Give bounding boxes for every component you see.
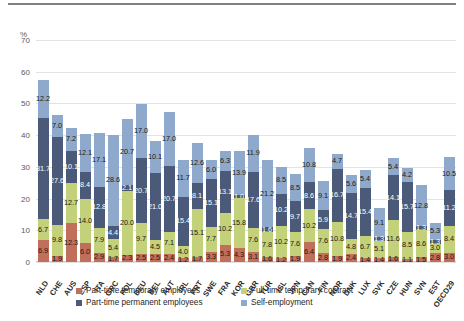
stacked-bar[interactable]: 11.917.67.63.1 <box>248 135 259 262</box>
stacked-bar[interactable]: 8.59.77.61.9 <box>290 174 301 262</box>
stacked-bar[interactable]: 9.15.97.62.8 <box>318 181 329 262</box>
bar-segment: 2.3 <box>122 255 133 262</box>
stacked-bar[interactable]: 12.18.414.06.0 <box>80 134 91 262</box>
bar-segment-value: 11.2 <box>442 204 456 211</box>
bar-segment: 3.1 <box>248 252 259 262</box>
bar-group[interactable]: 12.81.38.61.5 <box>414 40 428 262</box>
bar-group[interactable]: 9.11.35.11.4 <box>372 40 386 262</box>
bar-segment-value: 6.3 <box>220 158 230 165</box>
bar-segment: 15.4 <box>360 188 371 237</box>
stacked-bar[interactable]: 17.020.79.72.5 <box>136 104 147 262</box>
bar-group[interactable]: 12.68.115.11.7 <box>190 40 204 262</box>
bar-segment: 9.7 <box>136 223 147 254</box>
bar-group[interactable]: 5.31.33.02.8 <box>428 40 442 262</box>
bar-group[interactable]: 6.015.17.73.3 <box>204 40 218 262</box>
stacked-bar[interactable]: 5.31.33.02.8 <box>430 223 441 262</box>
stacked-bar[interactable]: 5.614.74.82.4 <box>346 175 357 262</box>
bar-segment-value: 5.6 <box>346 180 356 187</box>
bar-group[interactable]: 9.15.97.62.8 <box>316 40 330 262</box>
bar-segment: 9.1 <box>318 181 329 210</box>
bar-segment-value: 11.7 <box>176 175 190 182</box>
bar-segment-value: 12.2 <box>36 95 50 102</box>
bar-segment-value: 3.1 <box>248 253 258 260</box>
stacked-bar[interactable]: 12.231.76.76.9 <box>38 80 49 262</box>
bar-segment: 3.0 <box>444 253 455 263</box>
bar-segment-value: 17.0 <box>134 127 148 134</box>
stacked-bar[interactable]: 9.11.35.11.4 <box>374 208 385 262</box>
bar-segment: 1.7 <box>192 257 203 262</box>
bar-group[interactable]: 17.020.77.12.4 <box>162 40 176 262</box>
bar-segment: 20.7 <box>136 158 147 224</box>
stacked-bar[interactable]: 21.21.67.81.6 <box>262 160 273 262</box>
bar-group[interactable]: 4.716.710.81.9 <box>330 40 344 262</box>
stacked-bar[interactable]: 10.511.28.43.0 <box>444 157 455 262</box>
bar-group[interactable]: 12.231.76.76.9 <box>36 40 50 262</box>
bar-group[interactable]: 10.121.04.52.5 <box>148 40 162 262</box>
bar-group[interactable]: 21.21.67.81.6 <box>260 40 274 262</box>
bar-segment: 16.7 <box>332 169 343 222</box>
stacked-bar[interactable]: 13.91.015.84.3 <box>234 151 245 262</box>
legend-item[interactable]: Full-time temporary contract <box>241 286 406 295</box>
bar-group[interactable]: 7.027.69.81.9 <box>50 40 64 262</box>
legend-item[interactable]: Part-time permanent employees <box>76 298 241 307</box>
stacked-bar[interactable]: 11.715.44.01.2 <box>178 160 189 262</box>
bar-segment: 5.9 <box>318 210 329 229</box>
bar-group[interactable]: 5.414.111.61.6 <box>386 40 400 262</box>
bar-segment-value: 8.6 <box>304 192 314 199</box>
bar-group[interactable]: 13.91.015.84.3 <box>232 40 246 262</box>
stacked-bar[interactable]: 6.313.110.25.3 <box>220 151 231 262</box>
bar-group[interactable]: 7.210.112.712.3 <box>64 40 78 262</box>
stacked-bar[interactable]: 5.415.46.71.4 <box>360 170 371 262</box>
bar-group[interactable]: 28.64.45.41.7 <box>106 40 120 262</box>
bar-segment-value: 1.6 <box>388 256 398 263</box>
x-axis-label-slot: NLD <box>36 278 50 321</box>
bar-group[interactable]: 6.313.110.25.3 <box>218 40 232 262</box>
stacked-bar[interactable]: 6.015.17.73.3 <box>206 160 217 262</box>
bar-group[interactable]: 10.88.610.26.4 <box>302 40 316 262</box>
bar-group[interactable]: 11.917.67.63.1 <box>246 40 260 262</box>
bar-segment: 7.7 <box>206 227 217 251</box>
bar-segment-value: 11.6 <box>386 235 400 242</box>
stacked-bar[interactable]: 17.020.77.12.4 <box>164 112 175 262</box>
bar-group[interactable]: 17.020.79.72.5 <box>134 40 148 262</box>
stacked-bar[interactable]: 4.716.710.81.9 <box>332 154 343 262</box>
legend-item[interactable]: Part-time temporary employees <box>76 286 241 295</box>
stacked-bar[interactable]: 7.210.112.712.3 <box>66 128 77 262</box>
stacked-bar[interactable]: 7.027.69.81.9 <box>52 115 63 262</box>
stacked-bar[interactable]: 17.112.87.92.9 <box>94 133 105 262</box>
bar-segment: 1.5 <box>416 257 427 262</box>
stacked-bar[interactable]: 10.121.04.52.5 <box>150 141 161 262</box>
bar-segment-value: 7.0 <box>52 123 62 130</box>
bar-group[interactable]: 4.215.78.51.1 <box>400 40 414 262</box>
stacked-bar[interactable]: 8.510.210.21.2 <box>276 167 287 262</box>
bar-segment: 2.8 <box>318 253 329 262</box>
bar-segment-value: 5.4 <box>360 175 370 182</box>
bar-group[interactable]: 5.614.74.82.4 <box>344 40 358 262</box>
bar-segment: 8.5 <box>276 167 287 194</box>
bar-group[interactable]: 20.72.120.02.3 <box>120 40 134 262</box>
bar-group[interactable]: 12.18.414.06.0 <box>78 40 92 262</box>
stacked-bar[interactable]: 20.72.120.02.3 <box>122 119 133 262</box>
bar-segment: 1.9 <box>52 256 63 262</box>
bar-group[interactable]: 8.59.77.61.9 <box>288 40 302 262</box>
stacked-bar[interactable]: 28.64.45.41.7 <box>108 135 119 262</box>
bar-segment: 31.7 <box>38 118 49 219</box>
bar-group[interactable]: 17.112.87.92.9 <box>92 40 106 262</box>
bar-segment-value: 5.4 <box>388 163 398 170</box>
bar-group[interactable]: 5.415.46.71.4 <box>358 40 372 262</box>
bar-segment-value: 12.3 <box>64 239 78 246</box>
stacked-bar[interactable]: 5.414.111.61.6 <box>388 158 399 262</box>
bar-segment: 8.5 <box>290 174 301 201</box>
stacked-bar[interactable]: 10.88.610.26.4 <box>304 148 315 262</box>
stacked-bar[interactable]: 12.68.115.11.7 <box>192 143 203 262</box>
bar-segment: 6.0 <box>80 243 91 262</box>
bar-segment-value: 2.8 <box>430 254 440 261</box>
bar-segment: 4.3 <box>234 248 245 262</box>
bar-group[interactable]: 8.510.210.21.2 <box>274 40 288 262</box>
stacked-bar[interactable]: 12.81.38.61.5 <box>416 185 427 262</box>
bar-segment-value: 9.7 <box>136 235 146 242</box>
bar-group[interactable]: 11.715.44.01.2 <box>176 40 190 262</box>
bar-group[interactable]: 10.511.28.43.0 <box>442 40 456 262</box>
stacked-bar[interactable]: 4.215.78.51.1 <box>402 168 413 262</box>
legend-item[interactable]: Self-employment <box>241 298 406 307</box>
